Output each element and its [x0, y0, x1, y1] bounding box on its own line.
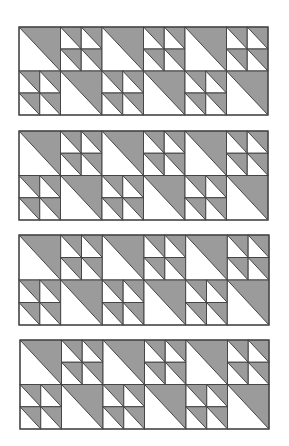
quilt-panel-4 [19, 339, 270, 430]
quilt-panel-3 [18, 234, 270, 326]
quilt-panel-1 [18, 26, 269, 116]
quilt-panel-2 [18, 130, 269, 221]
